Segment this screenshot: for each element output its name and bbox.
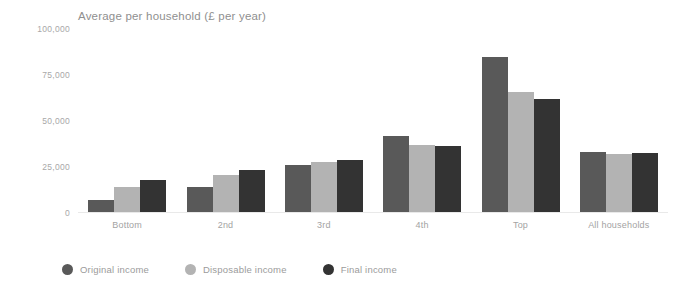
- legend-item-label: Final income: [341, 264, 397, 275]
- legend-item[interactable]: Final income: [323, 264, 397, 275]
- chart-legend: Original incomeDisposable incomeFinal in…: [62, 264, 397, 275]
- bar-group: [88, 29, 166, 213]
- x-axis-tick-label: 4th: [416, 220, 429, 230]
- circle-marker-icon: [185, 264, 196, 275]
- bar[interactable]: [383, 136, 409, 213]
- y-axis-tick-label: 100,000: [37, 24, 70, 34]
- bar[interactable]: [482, 57, 508, 213]
- bar[interactable]: [114, 187, 140, 213]
- bar[interactable]: [508, 92, 534, 213]
- legend-item-label: Disposable income: [203, 264, 287, 275]
- x-axis-tick-label: 2nd: [218, 220, 234, 230]
- bar-groups: [78, 29, 668, 213]
- x-axis-tick-label: 3rd: [317, 220, 331, 230]
- x-axis-baseline: [78, 212, 668, 213]
- bar[interactable]: [409, 145, 435, 213]
- bar-group: [383, 29, 461, 213]
- circle-marker-icon: [62, 264, 73, 275]
- y-axis-tick-label: 0: [65, 208, 70, 218]
- legend-item-label: Original income: [80, 264, 149, 275]
- bar[interactable]: [213, 175, 239, 213]
- x-axis-tick-label: Top: [513, 220, 528, 230]
- y-axis-tick-label: 50,000: [42, 116, 70, 126]
- bar[interactable]: [632, 153, 658, 213]
- y-axis-tick-label: 25,000: [42, 162, 70, 172]
- bar[interactable]: [580, 152, 606, 213]
- bar-group: [482, 29, 560, 213]
- circle-marker-icon: [323, 264, 334, 275]
- legend-item[interactable]: Disposable income: [185, 264, 287, 275]
- y-axis: 025,00050,00075,000100,000: [18, 29, 70, 213]
- bar[interactable]: [239, 170, 265, 213]
- y-axis-tick-label: 75,000: [42, 70, 70, 80]
- bar[interactable]: [337, 160, 363, 213]
- plot-area: [78, 29, 668, 213]
- x-axis: Bottom2nd3rd4thTopAll households: [78, 220, 668, 236]
- bar[interactable]: [285, 165, 311, 213]
- bar-chart: Average per household (£ per year) 025,0…: [0, 0, 679, 301]
- legend-item[interactable]: Original income: [62, 264, 149, 275]
- bar[interactable]: [534, 99, 560, 213]
- bar-group: [580, 29, 658, 213]
- bar-group: [285, 29, 363, 213]
- bar[interactable]: [187, 187, 213, 213]
- bar[interactable]: [140, 180, 166, 213]
- x-axis-tick-label: All households: [588, 220, 649, 230]
- x-axis-tick-label: Bottom: [112, 220, 142, 230]
- bar[interactable]: [435, 146, 461, 213]
- bar[interactable]: [311, 162, 337, 213]
- chart-title: Average per household (£ per year): [78, 10, 266, 22]
- bar[interactable]: [606, 154, 632, 213]
- bar-group: [187, 29, 265, 213]
